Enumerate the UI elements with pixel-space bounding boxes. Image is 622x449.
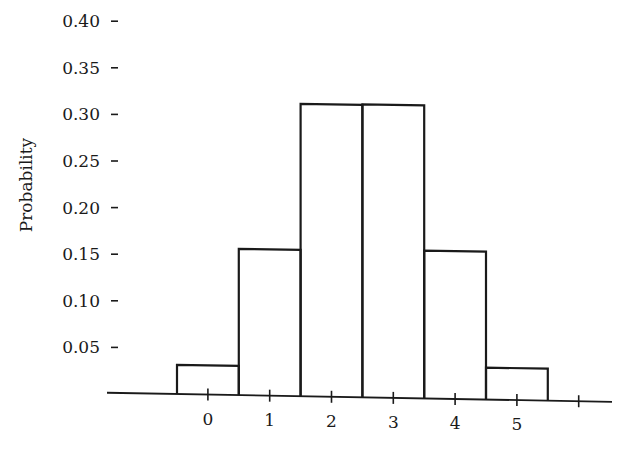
- y-axis-ticks: 0.050.100.150.200.250.300.350.40: [62, 11, 118, 357]
- bar-3: [362, 104, 424, 398]
- y-tick-label: 0.10: [62, 291, 100, 311]
- x-tick-label: 5: [511, 414, 522, 434]
- y-axis-label: Probability: [16, 137, 36, 232]
- x-tick-label: 3: [388, 412, 399, 432]
- x-tick-label: 4: [450, 413, 461, 433]
- x-tick-label: 0: [202, 409, 213, 429]
- y-tick-label: 0.15: [62, 244, 100, 264]
- bars: [177, 104, 548, 401]
- x-tick-label: 1: [264, 410, 275, 430]
- bar-2: [301, 104, 363, 397]
- y-tick-label: 0.20: [62, 198, 100, 218]
- x-axis: [107, 393, 612, 402]
- bar-1: [239, 249, 301, 396]
- y-tick-label: 0.05: [62, 337, 100, 357]
- y-tick-label: 0.40: [62, 11, 100, 31]
- x-tick-label: 2: [326, 411, 337, 431]
- x-axis-line: [107, 393, 612, 402]
- bar-4: [424, 251, 486, 400]
- y-tick-label: 0.35: [62, 58, 100, 78]
- probability-histogram: Probability 0.050.100.150.200.250.300.35…: [0, 0, 622, 449]
- y-tick-label: 0.25: [62, 151, 100, 171]
- y-tick-label: 0.30: [62, 104, 100, 124]
- y-axis-label-group: Probability: [16, 137, 36, 232]
